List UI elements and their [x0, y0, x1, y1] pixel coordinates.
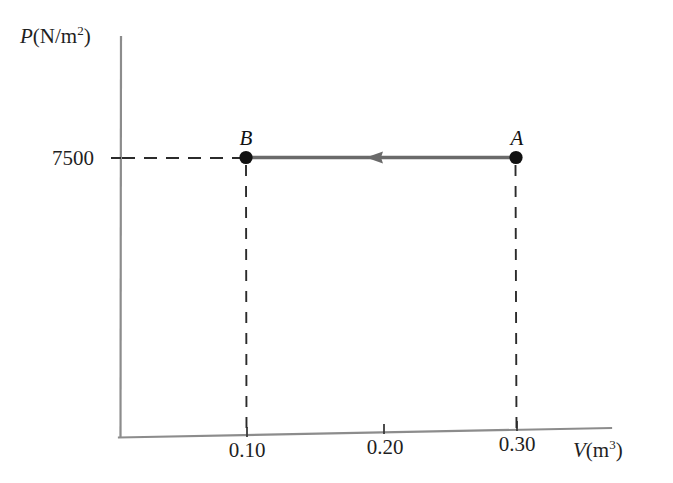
y-axis-label-unit: (N/m [33, 24, 77, 48]
data-point-a-marker [509, 151, 522, 164]
data-point-b-marker [239, 151, 252, 164]
y-axis-tick-label-7500: 7500 [52, 148, 94, 169]
x-axis-label-unit-close: ) [616, 438, 623, 462]
x-axis-tick-label-0-20: 0.20 [350, 437, 420, 458]
y-axis-label-variable: P [20, 24, 33, 48]
x-axis-label-variable: V [573, 438, 586, 462]
x-axis-tick-label-0-30: 0.30 [482, 434, 552, 455]
data-point-label-b: B [231, 128, 261, 149]
x-axis-label: V(m3) [573, 440, 623, 461]
pv-diagram-canvas [0, 0, 673, 483]
y-axis-label: P(N/m2) [20, 26, 91, 47]
pv-diagram-figure: P(N/m2) V(m3) 7500 0.10 0.20 0.30 B A [0, 0, 673, 483]
data-point-label-a: A [502, 128, 532, 149]
x-axis-tick-label-0-10: 0.10 [212, 440, 282, 461]
y-axis-line [121, 37, 122, 437]
guide-dashed-vertical-b [246, 165, 247, 437]
x-axis-label-unit: (m [586, 438, 609, 462]
guide-dashed-vertical-a [516, 165, 517, 430]
y-axis-label-unit-close: ) [84, 24, 91, 48]
process-direction-arrow-icon [366, 152, 383, 164]
